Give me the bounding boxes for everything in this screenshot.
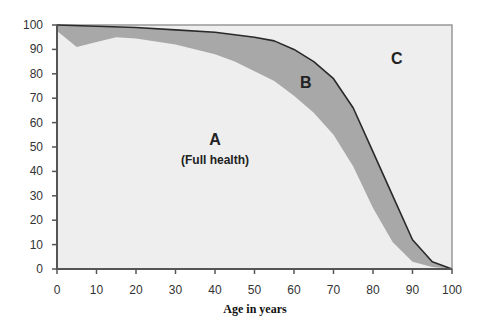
x-tick-label: 80 [366,283,380,297]
x-tick-label: 20 [129,283,143,297]
region-label-b: B [300,74,312,91]
region-sublabel: (Full health) [181,153,249,167]
y-tick-label: 80 [30,67,44,81]
y-tick-label: 90 [30,42,44,56]
x-tick-label: 40 [208,283,222,297]
x-tick-label: 10 [90,283,104,297]
y-tick-label: 70 [30,91,44,105]
y-tick-label: 60 [30,116,44,130]
region-label-c: C [391,50,403,67]
x-tick-label: 50 [248,283,262,297]
y-tick-label: 40 [30,164,44,178]
y-tick-label: 10 [30,238,44,252]
region-label-a: A [209,131,221,148]
y-tick-label: 50 [30,140,44,154]
y-tick-label: 0 [36,262,43,276]
y-tick-label: 30 [30,189,44,203]
x-tick-label: 70 [327,283,341,297]
chart: 0102030405060708090100010203040506070809… [0,0,486,334]
x-tick-label: 0 [54,283,61,297]
x-axis-label: Age in years [223,302,287,316]
x-tick-label: 60 [287,283,301,297]
x-tick-label: 90 [406,283,420,297]
x-tick-label: 100 [442,283,462,297]
y-tick-label: 20 [30,213,44,227]
y-tick-label: 100 [23,18,43,32]
x-tick-label: 30 [169,283,183,297]
